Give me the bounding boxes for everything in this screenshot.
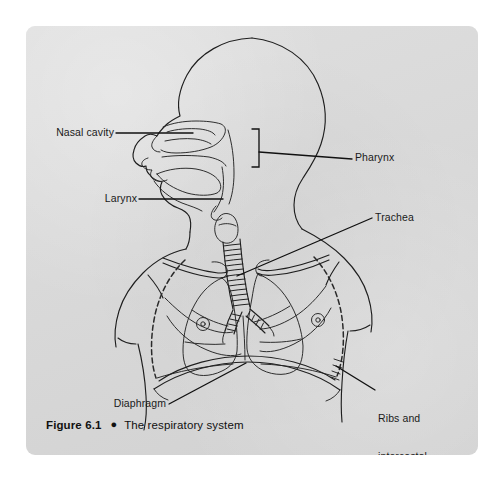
diaphragm-dome-upper xyxy=(159,356,335,381)
oral-cavity-group xyxy=(142,156,226,212)
arm-left-side xyxy=(118,338,136,344)
label-ribs-line-1: Ribs and xyxy=(378,412,427,425)
arm-right-side xyxy=(350,325,370,331)
lips xyxy=(142,158,167,181)
larynx-detail xyxy=(219,224,236,226)
leader-pharynx xyxy=(259,152,352,159)
nostril-notch xyxy=(152,136,160,152)
lung-right-fissure xyxy=(254,306,290,322)
label-ribs-intercostal-muscles: Ribs and intercostal muscles xyxy=(378,387,427,455)
caption-figure-number: Figure 6.1 xyxy=(46,419,101,431)
diaphragm-dome-lower xyxy=(154,362,340,390)
rib-cage-left xyxy=(152,260,185,378)
clavicle-left xyxy=(163,258,227,273)
diaphragm-group xyxy=(154,356,340,401)
clavicles-group xyxy=(163,255,329,278)
tongue xyxy=(157,168,221,195)
label-pharynx: Pharynx xyxy=(355,152,394,164)
label-larynx: Larynx xyxy=(26,193,137,205)
label-ribs-line-2: intercostal xyxy=(378,450,427,456)
neck-outline-group xyxy=(186,232,190,249)
nasal-cavity-outline xyxy=(161,121,225,153)
shoulder-left-outline xyxy=(115,249,186,347)
pharynx-group xyxy=(211,130,234,220)
torso-right-side xyxy=(341,331,348,422)
diaphragm-attachment-right xyxy=(326,390,340,401)
pharynx-wall-anterior xyxy=(214,167,224,212)
nasal-turbinate-lower xyxy=(165,139,211,144)
skull-outline xyxy=(133,38,252,232)
lung-left-fissure-2 xyxy=(185,342,225,344)
caption-bullet-icon: ● xyxy=(110,419,117,430)
pharynx-wall-posterior xyxy=(228,130,234,204)
bronchi-group xyxy=(223,309,274,343)
leader-lines-group xyxy=(116,133,375,404)
label-trachea: Trachea xyxy=(375,212,414,224)
arm-right-inner xyxy=(326,262,339,285)
palate-line xyxy=(162,156,226,167)
bronchiole-right-tip xyxy=(269,327,274,336)
bronchus-left-wall-a xyxy=(225,310,233,331)
sternum-midline xyxy=(243,316,245,360)
torso-left-side xyxy=(138,344,146,430)
figure-panel: .ln { fill:none; stroke:#1f1f1f; stroke-… xyxy=(26,26,478,455)
label-diaphragm: Diaphragm xyxy=(26,398,166,410)
nipple-left-inner xyxy=(201,322,205,326)
occiput-neck-outline xyxy=(252,38,325,229)
larynx-group xyxy=(215,213,238,243)
nipple-left xyxy=(197,318,210,331)
larynx-outline xyxy=(215,213,238,243)
pharynx-bracket-marker xyxy=(252,129,259,167)
clavicle-left-lower xyxy=(163,263,228,278)
neck-front-line xyxy=(186,232,190,249)
nasal-turbinate-upper xyxy=(167,129,215,135)
nasal-cavity-group xyxy=(152,121,226,153)
bronchus-left-rings xyxy=(227,314,241,331)
nipple-right xyxy=(312,314,325,327)
figure-caption: Figure 6.1 ● The respiratory system xyxy=(46,419,244,431)
lung-right-fissure-2 xyxy=(260,339,301,342)
rib-cage-right xyxy=(314,257,343,376)
pectoral-right xyxy=(260,286,326,329)
nipple-right-inner xyxy=(316,318,320,322)
caption-title: The respiratory system xyxy=(124,419,243,431)
label-nasal-cavity: Nasal cavity xyxy=(26,127,114,139)
